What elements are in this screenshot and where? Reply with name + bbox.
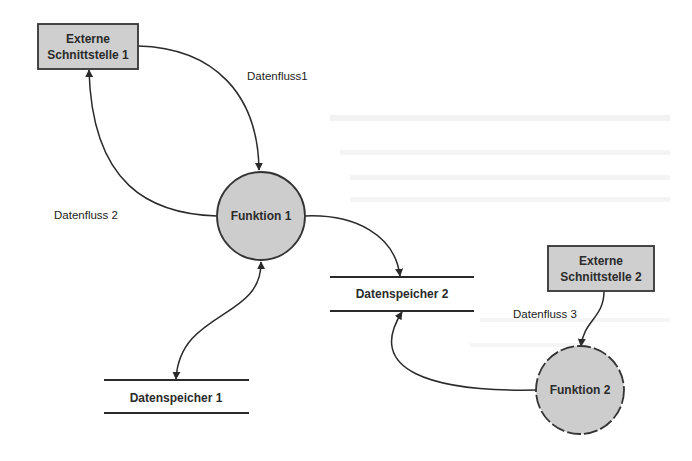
flow-arrow-datenfluss1[interactable] <box>138 46 259 170</box>
data-store-1-label: Datenspeicher 1 <box>130 391 223 405</box>
external-entity-2-line1: Externe <box>579 254 623 268</box>
function-2-label: Funktion 2 <box>550 383 611 397</box>
flow-arrow-datenfluss2[interactable] <box>89 70 217 216</box>
external-entity-1-line1: Externe <box>66 32 110 46</box>
external-entity-1-line2: Schnittstelle 1 <box>47 48 129 62</box>
flow-label-datenfluss3: Datenfluss 3 <box>513 308 577 320</box>
flow-arrow-f1-datenspeicher1[interactable] <box>176 262 261 379</box>
data-store-2[interactable]: Datenspeicher 2 <box>330 277 474 311</box>
flow-arrow-f1-to-datenspeicher2[interactable] <box>305 216 400 276</box>
background-ghost-text <box>330 115 670 347</box>
function-2[interactable]: Funktion 2 <box>536 346 624 434</box>
external-entity-2[interactable]: Externe Schnittstelle 2 <box>548 246 654 291</box>
data-store-2-label: Datenspeicher 2 <box>356 287 449 301</box>
flow-label-datenfluss2: Datenfluss 2 <box>54 209 118 221</box>
flow-label-datenfluss1: Datenfluss1 <box>247 70 308 82</box>
external-entity-1-box[interactable] <box>38 24 138 69</box>
external-entity-2-box[interactable] <box>548 246 654 291</box>
data-flow-diagram: Datenfluss1 Datenfluss 2 Datenfluss 3 Ex… <box>0 0 692 461</box>
function-1[interactable]: Funktion 1 <box>217 172 305 260</box>
external-entity-1[interactable]: Externe Schnittstelle 1 <box>38 24 138 69</box>
function-1-label: Funktion 1 <box>231 209 292 223</box>
flow-arrow-f2-to-datenspeicher2[interactable] <box>392 312 536 390</box>
data-store-1[interactable]: Datenspeicher 1 <box>104 380 249 413</box>
external-entity-2-line2: Schnittstelle 2 <box>560 270 642 284</box>
